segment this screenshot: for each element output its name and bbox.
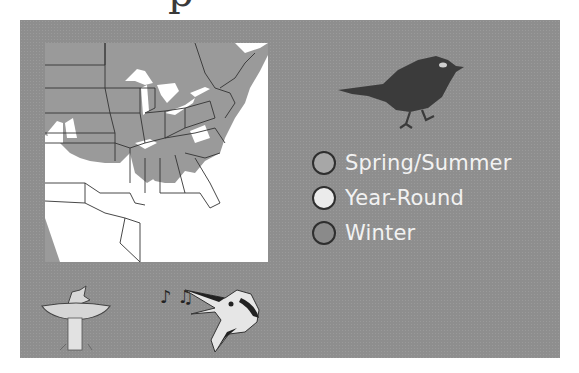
birdbath-icon [40,282,112,354]
bird-silhouette-icon [338,52,466,134]
year-round-swatch-icon [312,186,336,210]
winter-swatch-icon [312,221,336,245]
legend-label: Winter [345,221,415,245]
season-legend: Spring/Summer Year-Round Winter [312,145,512,250]
legend-item-spring-summer: Spring/Summer [312,145,512,180]
range-panel: Spring/Summer Year-Round Winter ♪ ♫ [20,20,560,358]
spring-summer-swatch-icon [312,151,336,175]
legend-label: Year-Round [345,186,464,210]
legend-label: Spring/Summer [345,151,512,175]
legend-item-year-round: Year-Round [312,180,512,215]
legend-item-winter: Winter [312,215,512,250]
range-map [45,43,268,262]
singing-bird-head-icon [185,282,263,354]
map-icon [45,43,268,262]
heading-fragment: p [168,0,194,12]
